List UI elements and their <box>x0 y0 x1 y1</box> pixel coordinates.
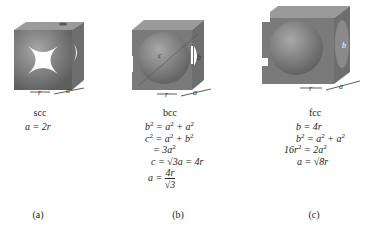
equation-line: b = 4r <box>284 121 345 133</box>
scc-dimension-arrows: r a <box>28 84 88 98</box>
dim-b-label: b <box>342 41 346 50</box>
equations: b = 4r b2 = a2 + a2 16r2 = 2a2 a = √8r <box>284 121 345 167</box>
equation-line: b2 = a2 + a2 <box>284 133 345 145</box>
panel-bcc: c b r a bcc b2 = a2 + a2 c2 = a2 + b2 = … <box>120 0 240 231</box>
svg-text:a: a <box>193 88 197 97</box>
equations: a = 2r <box>25 121 51 133</box>
structure-label: scc <box>10 107 70 118</box>
equation-line: 16r2 = 2a2 <box>284 144 345 156</box>
caption: (a) <box>18 209 58 220</box>
fcc-unit-cell-illustration: b <box>258 2 358 88</box>
structure-label: fcc <box>285 107 345 118</box>
equation-line: a = √8r <box>284 156 345 168</box>
dim-b-label: b <box>197 53 201 62</box>
dim-a-label: a <box>66 86 70 95</box>
svg-text:r: r <box>165 90 169 99</box>
dim-r-label: r <box>38 88 42 97</box>
equation-line: = 3a2 <box>145 144 203 156</box>
svg-text:r: r <box>309 84 313 93</box>
equation-line: a = 2r <box>25 121 51 133</box>
scc-unit-cell-illustration <box>8 18 93 93</box>
structure-label: bcc <box>140 107 200 118</box>
equation-line: b2 = a2 + a2 <box>145 121 203 133</box>
svg-text:a: a <box>339 82 343 91</box>
bcc-unit-cell-illustration: c b <box>128 16 213 94</box>
equations: b2 = a2 + a2 c2 = a2 + b2 = 3a2 c = √3a … <box>145 121 203 190</box>
bcc-dimension-arrows: r a <box>155 86 215 100</box>
dim-c-label: c <box>158 51 162 60</box>
panel-scc: r a scc a = 2r (a) <box>0 0 120 231</box>
panel-fcc: b r a fcc b = 4r b2 = a2 + a2 16r2 = 2a2… <box>240 0 365 231</box>
equation-line: c = √3a = 4r <box>145 156 203 168</box>
caption: (b) <box>158 209 198 220</box>
equation-line: a = 4r√3 <box>145 167 203 190</box>
fcc-dimension-arrows: r a <box>298 78 363 94</box>
caption: (c) <box>294 209 334 220</box>
